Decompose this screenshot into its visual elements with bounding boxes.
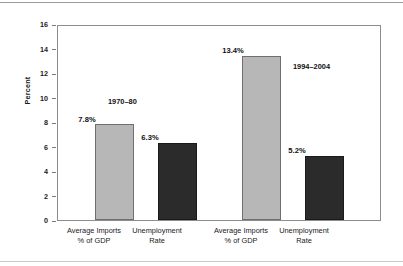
x-category-label-4: Unemployment Rate bbox=[261, 226, 347, 245]
bar-unemployment-1994-2004 bbox=[305, 156, 344, 220]
y-tick-mark bbox=[52, 172, 56, 173]
bar-value-label: 6.3% bbox=[127, 133, 173, 142]
y-tick-mark bbox=[52, 25, 56, 26]
y-tick-mark bbox=[52, 49, 56, 50]
bar-avg-imports-1994-2004 bbox=[242, 56, 281, 220]
y-tick-label: 14 bbox=[26, 45, 48, 54]
y-tick-mark bbox=[52, 123, 56, 124]
y-tick-mark bbox=[52, 147, 56, 148]
y-tick-label: 6 bbox=[26, 143, 48, 152]
bar-value-label: 5.2% bbox=[274, 146, 320, 155]
page-rule-top bbox=[0, 2, 403, 3]
x-category-line2: Rate bbox=[114, 236, 200, 246]
x-category-line1: Average Imports bbox=[67, 226, 121, 235]
bar-unemployment-1970-80 bbox=[158, 143, 197, 220]
x-category-line1: Average Imports bbox=[214, 226, 268, 235]
y-tick-label: 4 bbox=[26, 167, 48, 176]
group-annotation-1994-2004: 1994–2004 bbox=[293, 62, 330, 71]
x-category-line2: Rate bbox=[261, 236, 347, 246]
chart-figure: Percent 16 14 12 10 8 6 4 2 0 bbox=[0, 0, 403, 266]
x-category-line1: Unemployment bbox=[279, 226, 329, 235]
bar-value-label: 7.8% bbox=[64, 115, 110, 124]
page-rule-bottom bbox=[0, 261, 403, 262]
y-tick-mark bbox=[52, 196, 56, 197]
y-tick-label: 16 bbox=[26, 20, 48, 29]
y-tick-label: 8 bbox=[26, 118, 48, 127]
y-tick-label: 0 bbox=[26, 216, 48, 225]
y-tick-mark bbox=[52, 74, 56, 75]
y-tick-label: 2 bbox=[26, 192, 48, 201]
y-tick-label: 12 bbox=[26, 69, 48, 78]
y-tick-mark bbox=[52, 98, 56, 99]
x-category-label-2: Unemployment Rate bbox=[114, 226, 200, 245]
y-tick-label: 10 bbox=[26, 94, 48, 103]
group-annotation-1970-80: 1970–80 bbox=[108, 97, 137, 106]
bar-value-label: 13.4% bbox=[208, 46, 258, 55]
x-category-line1: Unemployment bbox=[132, 226, 182, 235]
y-tick-mark bbox=[52, 221, 56, 222]
